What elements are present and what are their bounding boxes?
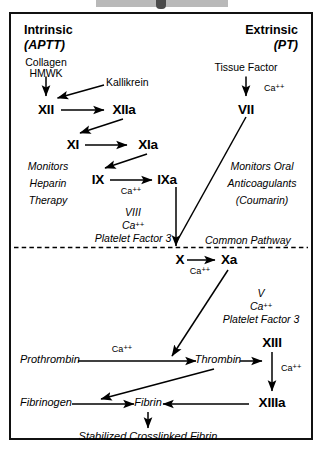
- factor-xa: Xa: [221, 253, 237, 267]
- extrinsic-monitor-note-line1: Monitors Oral: [230, 161, 293, 172]
- intrinsic-pathway-test: (APTT): [24, 39, 65, 52]
- initiator-tissue-factor: Tissue Factor: [214, 62, 277, 73]
- factor-xia: XIa: [138, 138, 158, 152]
- cropped-title-glyph-artifact: [156, 0, 166, 9]
- calcium-label-ix: Ca++: [121, 186, 141, 196]
- factor-xiii: XIII: [262, 336, 281, 350]
- factor-vii: VII: [238, 103, 254, 117]
- extrinsic-monitor-note-line3: (Coumarin): [236, 195, 289, 206]
- factor-xii: XII: [38, 103, 54, 117]
- intrinsic-monitor-note-line2: Heparin: [30, 178, 67, 189]
- calcium-label-vii: Ca++: [264, 83, 284, 93]
- intrinsic-monitor-note-line3: Therapy: [29, 195, 68, 206]
- prothrombinase-platelet-factor-3: Platelet Factor 3: [223, 314, 299, 325]
- factor-thrombin: Thrombin: [195, 354, 241, 366]
- coagulation-cascade-diagram: Intrinsic (APTT) Collagen HMWK Kallikrei…: [0, 0, 324, 457]
- initiator-hmwk: HMWK: [29, 68, 62, 79]
- factor-prothrombin: Prothrombin: [20, 354, 80, 366]
- factor-fibrin: Fibrin: [134, 397, 162, 409]
- tenase-cofactor-viii: VIII: [125, 207, 141, 218]
- intrinsic-monitor-note-line1: Monitors: [28, 161, 68, 172]
- factor-xi: XI: [67, 138, 79, 152]
- extrinsic-pathway-test: (PT): [274, 39, 298, 52]
- tenase-platelet-factor-3: Platelet Factor 3: [95, 233, 171, 244]
- factor-fibrinogen: Fibrinogen: [20, 397, 72, 409]
- prothrombinase-calcium: Ca++: [250, 301, 272, 312]
- factor-x: X: [176, 253, 185, 267]
- calcium-label-prothrombin: Ca++: [112, 344, 132, 354]
- prothrombinase-cofactor-v: V: [257, 288, 264, 299]
- factor-ix: IX: [92, 173, 104, 187]
- factor-xiiia: XIIIa: [259, 396, 286, 410]
- extrinsic-monitor-note-line2: Anticoagulants: [228, 178, 297, 189]
- intrinsic-pathway-heading: Intrinsic: [24, 24, 73, 37]
- calcium-label-xiii: Ca++: [281, 363, 301, 373]
- common-pathway-label: Common Pathway: [205, 235, 291, 246]
- activator-kallikrein: Kallikrein: [106, 77, 149, 88]
- tenase-calcium: Ca++: [122, 220, 144, 231]
- calcium-label-x: Ca++: [190, 266, 210, 276]
- factor-xiia: XIIa: [112, 103, 135, 117]
- factor-ixa: IXa: [157, 173, 177, 187]
- extrinsic-pathway-heading: Extrinsic: [245, 24, 298, 37]
- final-product-label: Stabilized Crosslinked Fibrin: [79, 431, 218, 443]
